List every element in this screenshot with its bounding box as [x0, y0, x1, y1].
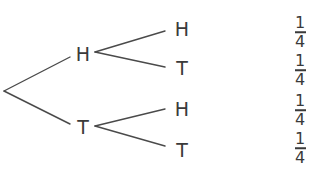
node-level2-ht: T [176, 59, 188, 78]
tree-branches [0, 0, 326, 178]
probability-numerator: 1 [295, 93, 305, 108]
node-level2-tt: T [176, 141, 188, 160]
probability-tt: 1 4 [292, 131, 308, 165]
node-level1-h: H [76, 45, 90, 64]
probability-numerator: 1 [295, 53, 305, 68]
probability-denominator: 4 [295, 34, 305, 49]
probability-numerator: 1 [295, 15, 305, 30]
probability-denominator: 4 [295, 112, 305, 127]
branch-t-to-h [95, 109, 165, 126]
node-level2-th: H [175, 100, 189, 119]
branch-h-to-h [95, 31, 165, 52]
probability-ht: 1 4 [292, 53, 308, 87]
branch-t-to-t [95, 126, 165, 146]
probability-hh: 1 4 [292, 15, 308, 49]
branch-root-to-h [4, 57, 70, 91]
probability-denominator: 4 [295, 72, 305, 87]
node-level2-hh: H [175, 20, 189, 39]
probability-th: 1 4 [292, 93, 308, 127]
probability-numerator: 1 [295, 131, 305, 146]
node-level1-t: T [77, 118, 89, 137]
branch-h-to-t [95, 52, 165, 67]
probability-denominator: 4 [295, 150, 305, 165]
branch-root-to-t [4, 91, 70, 124]
